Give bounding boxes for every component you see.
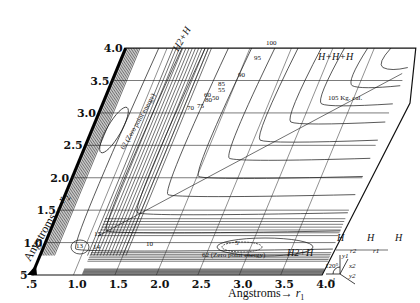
- contour-value-100: 100: [266, 39, 277, 47]
- grid-line-r1: [198, 48, 292, 275]
- contour-value-14: 14: [93, 243, 101, 251]
- r1-label: r1: [373, 247, 379, 255]
- repulsive-wall-edge: [32, 48, 126, 275]
- y-tick-label: 5: [20, 269, 28, 282]
- atom-h-1: H: [336, 232, 345, 243]
- h-h-h-label: H+H+H: [317, 51, 354, 62]
- contour-elbow: [351, 48, 400, 88]
- y-tick-label: 3.5: [90, 75, 109, 88]
- x2-label: x2: [348, 262, 356, 270]
- contour-value-95: 95: [254, 54, 262, 62]
- contour-elbow: [381, 48, 408, 69]
- atom-h-2: H: [366, 232, 375, 243]
- contour-value-10: 10: [146, 240, 154, 248]
- x-tick-label: 1.5: [109, 278, 128, 291]
- contour-value-15: 15: [94, 230, 102, 238]
- contour-value-85: 85: [218, 80, 226, 88]
- x-tick-label: .5: [26, 278, 37, 291]
- grid-line-r1: [115, 48, 209, 275]
- grid-line-r1: [281, 48, 375, 275]
- contour-value-70: 70: [187, 104, 195, 112]
- x-tick-label: 1.0: [67, 278, 86, 291]
- x1-label: x1: [328, 276, 336, 284]
- contour-value-13: 13: [76, 242, 84, 250]
- contour-elbow: [229, 48, 371, 160]
- x-axis-label: Angstroms→ r1: [228, 286, 304, 302]
- y-tick-label: 2.0: [50, 172, 69, 185]
- r2-label: r2: [350, 247, 357, 255]
- y1-label: y1: [341, 252, 349, 260]
- grid-line-r1: [73, 48, 167, 275]
- contour-value-90: 90: [238, 71, 246, 79]
- x-tick-label: 2.5: [192, 278, 211, 291]
- contour-value-75: 75: [197, 102, 205, 110]
- y-tick-label: 4.0: [104, 42, 123, 55]
- corner-wedge: [27, 265, 37, 275]
- contour-value-5: 5: [235, 239, 239, 247]
- y-tick-label: 2.5: [64, 139, 83, 152]
- atom-h-3: H: [394, 232, 403, 243]
- y-tick-label: 3.0: [77, 107, 96, 120]
- grid-line-r1: [239, 48, 333, 275]
- h2-h-top-label: H2+H: [170, 24, 194, 54]
- angle-label: 120°: [325, 262, 339, 270]
- y2-label: y2: [348, 272, 356, 280]
- axis-x2-icon: [340, 259, 348, 274]
- x-tick-label: 2.0: [150, 278, 169, 291]
- potential-energy-diagram: .51.01.52.02.53.03.54.0 51.01.52.02.53.0…: [0, 0, 420, 303]
- zero-point-bottom-label: 62 (Zero point energy): [202, 251, 266, 259]
- contour-value-80: 80: [205, 96, 213, 104]
- zero-point-top-label: 62 (Zero point energy): [119, 91, 158, 151]
- kgcal-label: 105 Kg. cal.: [328, 94, 362, 102]
- contour-value-50: 50: [212, 94, 220, 102]
- h2-h-bottom-label: H2+H: [286, 247, 314, 258]
